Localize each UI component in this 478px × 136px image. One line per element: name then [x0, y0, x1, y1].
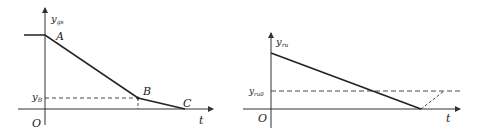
recovery-dashed-diagonal	[421, 91, 444, 109]
right-curve	[271, 53, 421, 109]
right-y-axis-label: yru	[275, 36, 289, 48]
point-a-label: A	[55, 30, 64, 43]
right-origin-label: O	[258, 112, 267, 125]
yru0-level-label: yru0	[248, 86, 264, 97]
yb-level-label: yB	[31, 91, 43, 103]
diagram-canvas: ygs A B C yB O t yru yru0 O t	[0, 0, 478, 136]
left-y-axis-label: ygs	[50, 13, 64, 26]
right-chart: yru yru0 O t	[243, 33, 462, 128]
point-b-marker	[137, 97, 140, 100]
right-t-label: t	[446, 112, 451, 125]
point-b-label: B	[142, 85, 151, 98]
left-t-label: t	[199, 114, 204, 127]
left-origin-label: O	[32, 117, 41, 130]
left-chart: ygs A B C yB O t	[18, 8, 213, 130]
point-c-label: C	[183, 97, 192, 110]
diagram-svg: ygs A B C yB O t yru yru0 O t	[0, 0, 478, 136]
